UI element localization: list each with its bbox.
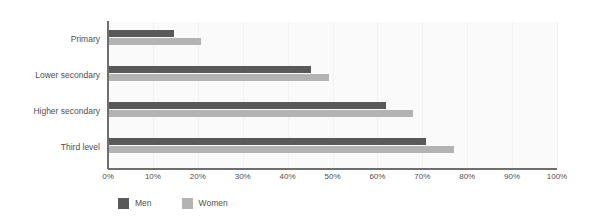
x-axis-tick-label: 70% — [414, 171, 430, 183]
x-axis-tick-label: 100% — [547, 171, 567, 183]
y-axis-category-label: Lower secondary — [4, 70, 100, 80]
x-axis-tick-label: 50% — [324, 171, 340, 183]
y-axis-category-label: Primary — [4, 34, 100, 44]
category-row: Third level — [0, 130, 599, 166]
x-axis-tick-label: 20% — [190, 171, 206, 183]
bar-women — [109, 146, 454, 153]
y-axis-category-label: Higher secondary — [4, 106, 100, 116]
bar-group — [109, 58, 558, 94]
x-axis-tick-label: 40% — [280, 171, 296, 183]
x-axis-tick-label: 60% — [369, 171, 385, 183]
legend-swatch-men — [118, 198, 129, 209]
y-axis-category-label: Third level — [4, 142, 100, 152]
category-row: Primary — [0, 22, 599, 58]
x-axis-tick-label: 80% — [459, 171, 475, 183]
bar-women — [109, 38, 201, 45]
bar-men — [109, 138, 426, 145]
category-row: Higher secondary — [0, 94, 599, 130]
x-axis-tick-label: 10% — [145, 171, 161, 183]
bar-group — [109, 22, 558, 58]
x-axis-tick-label: 90% — [504, 171, 520, 183]
x-axis-tick-label: 0% — [102, 171, 114, 183]
legend-label: Men — [135, 198, 152, 209]
category-row: Lower secondary — [0, 58, 599, 94]
x-axis-line — [108, 168, 557, 170]
bar-men — [109, 102, 386, 109]
legend-item-men[interactable]: Men — [118, 198, 152, 209]
bar-chart: PrimaryLower secondaryHigher secondaryTh… — [0, 0, 599, 219]
bar-men — [109, 66, 311, 73]
chart-legend: MenWomen — [118, 196, 228, 210]
x-axis-tick-labels: 0%10%20%30%40%50%60%70%80%90%100% — [108, 171, 557, 185]
legend-label: Women — [199, 198, 228, 209]
bar-women — [109, 110, 413, 117]
bar-group — [109, 130, 558, 166]
bar-group — [109, 94, 558, 130]
bar-women — [109, 74, 329, 81]
bar-men — [109, 30, 174, 37]
legend-swatch-women — [182, 198, 193, 209]
legend-item-women[interactable]: Women — [182, 198, 228, 209]
x-axis-tick-label: 30% — [235, 171, 251, 183]
